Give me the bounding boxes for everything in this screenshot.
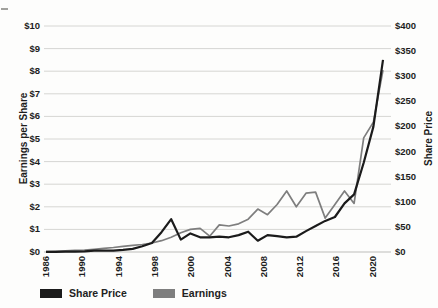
- right-tick-label: $0: [395, 247, 429, 257]
- left-tick-label: $1: [10, 224, 40, 234]
- left-tick-label: $4: [10, 157, 40, 167]
- right-tick-label: $50: [395, 222, 429, 232]
- right-tick-label: $100: [395, 197, 429, 207]
- x-tick-label: 1986: [40, 256, 52, 290]
- left-tick-label: $2: [10, 202, 40, 212]
- x-tick-label: 1990: [76, 256, 88, 290]
- left-tick-label: $6: [10, 111, 40, 121]
- right-tick-label: $200: [395, 121, 429, 131]
- x-tick-label: 1994: [113, 256, 125, 290]
- legend-swatch-share-price: [40, 289, 62, 298]
- left-tick-label: $10: [10, 21, 40, 31]
- left-tick-label: $9: [10, 44, 40, 54]
- legend-label: Share Price: [69, 287, 127, 299]
- legend-swatch-earnings: [153, 289, 175, 298]
- legend-item-share-price: Share Price: [40, 287, 127, 299]
- x-tick-label: 2012: [294, 256, 306, 290]
- earnings-line: [46, 70, 383, 251]
- x-tick-label: 1998: [149, 256, 161, 290]
- legend-label: Earnings: [182, 287, 227, 299]
- x-tick-label: 2008: [258, 256, 270, 290]
- left-tick-label: $0: [10, 247, 40, 257]
- left-tick-label: $8: [10, 66, 40, 76]
- earnings-vs-share-price-chart: Earnings per Share Share Price $10$9$8$7…: [0, 0, 438, 308]
- left-tick-label: $7: [10, 89, 40, 99]
- x-tick-label: 2000: [185, 256, 197, 290]
- right-tick-label: $300: [395, 71, 429, 81]
- right-tick-label: $350: [395, 46, 429, 56]
- right-tick-label: $200: [395, 147, 429, 157]
- right-tick-label: $250: [395, 96, 429, 106]
- right-tick-label: $400: [395, 21, 429, 31]
- share-price-line: [46, 60, 383, 252]
- left-tick-label: $3: [10, 179, 40, 189]
- x-tick-label: 2020: [367, 256, 379, 290]
- x-tick-label: 2016: [330, 256, 342, 290]
- right-tick-label: $150: [395, 172, 429, 182]
- x-tick-label: 2004: [222, 256, 234, 290]
- legend-item-earnings: Earnings: [153, 287, 227, 299]
- legend: Share PriceEarnings: [40, 287, 227, 299]
- left-tick-label: $5: [10, 134, 40, 144]
